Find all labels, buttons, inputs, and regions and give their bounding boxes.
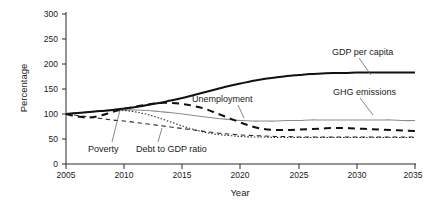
x-tick-2010: 2010 xyxy=(115,170,134,180)
label-gdp-per-capita: GDP per capita xyxy=(332,47,393,57)
line-chart-canvas: 300 250 200 150 100 50 0 2005 2010 2015 … xyxy=(0,0,425,200)
series-paths xyxy=(66,72,415,137)
x-axis-tick-labels: 2005 2010 2015 2020 2025 2030 2035 xyxy=(57,170,423,180)
leader-unemployment xyxy=(238,105,244,118)
label-unemployment: Unemployment xyxy=(192,94,253,104)
leader-poverty xyxy=(112,110,120,142)
y-tick-300: 300 xyxy=(44,9,58,19)
y-tick-200: 200 xyxy=(44,59,58,69)
y-tick-0: 0 xyxy=(53,159,58,169)
y-tick-50: 50 xyxy=(49,134,59,144)
chart-figure: 300 250 200 150 100 50 0 2005 2010 2015 … xyxy=(0,0,425,200)
y-axis-ticks xyxy=(62,14,66,164)
y-tick-250: 250 xyxy=(44,34,58,44)
label-poverty: Poverty xyxy=(88,144,119,154)
y-tick-150: 150 xyxy=(44,84,58,94)
y-axis-title: Percentage xyxy=(18,64,29,113)
x-tick-2035: 2035 xyxy=(404,170,423,180)
x-tick-2030: 2030 xyxy=(348,170,367,180)
leader-ghg-emissions xyxy=(360,98,373,115)
x-tick-2005: 2005 xyxy=(57,170,76,180)
y-tick-100: 100 xyxy=(44,109,58,119)
x-tick-2020: 2020 xyxy=(231,170,250,180)
series-line-debt-to-gdp xyxy=(66,110,415,137)
leader-debt-to-gdp xyxy=(158,128,162,142)
y-axis-tick-labels: 300 250 200 150 100 50 0 xyxy=(44,9,58,169)
x-tick-2025: 2025 xyxy=(290,170,309,180)
x-axis-title: Year xyxy=(230,187,249,198)
label-debt-to-gdp: Debt to GDP ratio xyxy=(136,144,207,154)
label-ghg-emissions: GHG emissions xyxy=(333,87,397,97)
x-axis-ticks xyxy=(66,164,415,169)
x-tick-2015: 2015 xyxy=(173,170,192,180)
